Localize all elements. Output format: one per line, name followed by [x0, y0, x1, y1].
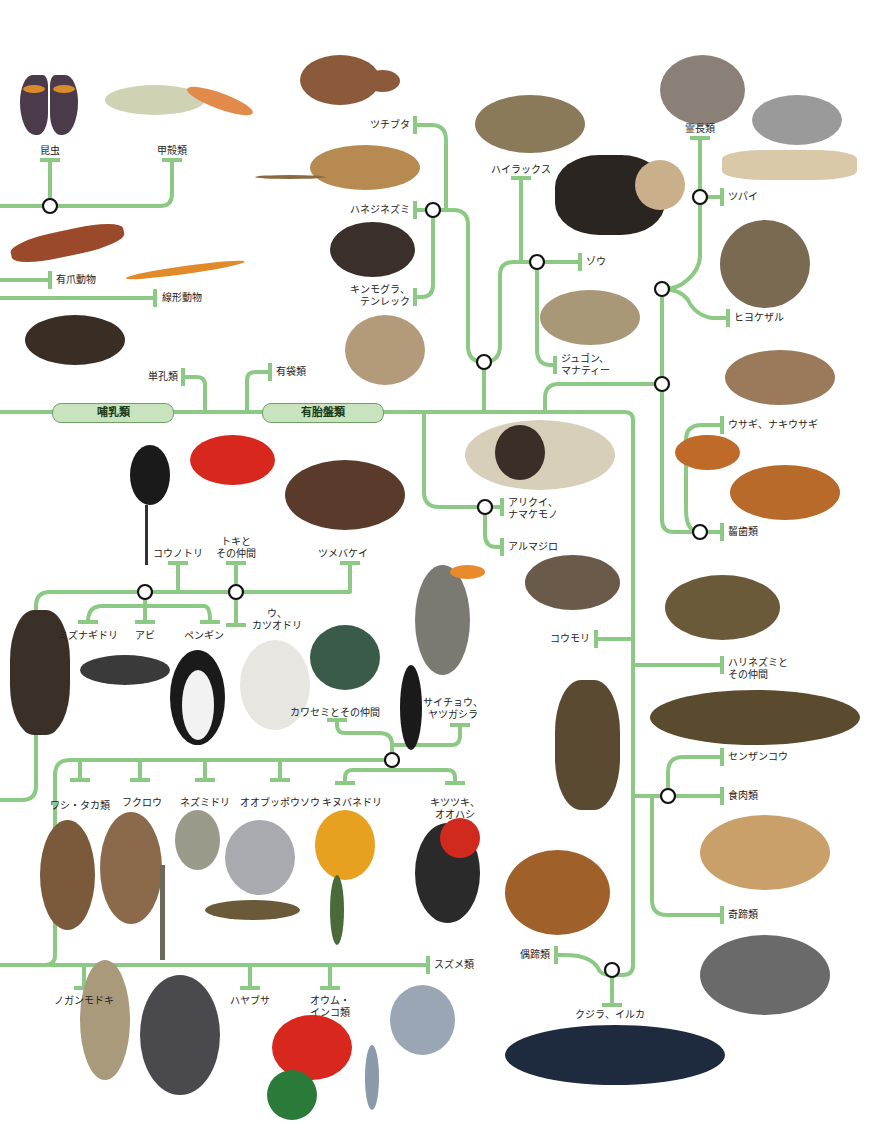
label-passerines: スズメ類: [434, 959, 474, 971]
label-insects: 昆虫: [40, 145, 60, 157]
hawk-image: [40, 820, 100, 935]
squirrel-image: [675, 435, 845, 525]
label-pangolins: センザンコウ: [728, 751, 788, 763]
label-woodpeckers: キツツキ、 オオハシ: [430, 797, 480, 821]
label-hedgehogs: ハリネズミと その仲間: [728, 657, 788, 681]
bat-image: [550, 660, 625, 815]
pig-image: [505, 850, 615, 945]
label-perissodactyls: 奇蹄類: [728, 909, 758, 921]
shearwater-image: [0, 600, 80, 740]
golden-mole-image: [330, 222, 415, 280]
label-crustaceans: 甲殻類: [157, 145, 187, 157]
trogon-image: [310, 810, 385, 945]
label-armadillos: アルマジロ: [508, 541, 558, 553]
kingfisher-image: [300, 620, 405, 695]
falcon-image: [135, 975, 225, 1100]
label-storks: コウノトリ: [153, 548, 203, 560]
armadillo-image: [465, 555, 625, 615]
elephant-image: [555, 155, 690, 250]
hoatzin-image: [275, 440, 415, 540]
jackal-image: [690, 810, 840, 895]
label-whales: クジラ、イルカ: [575, 1009, 645, 1021]
label-loons: アビ: [135, 630, 155, 642]
label-hoatzin: ツメバケイ: [318, 548, 368, 560]
label-hornbills: サイチョウ、 ヤツガシラ: [423, 697, 483, 721]
label-rabbits: ウサギ、ナキウサギ: [728, 419, 818, 431]
kangaroo-image: [335, 315, 450, 395]
anteater-image: [435, 420, 620, 495]
hyrax-image: [475, 95, 590, 155]
label-colugos: ヒヨケザル: [734, 312, 784, 324]
rhino-image: [700, 935, 835, 1020]
label-eagles-hawks: ワシ・タカ類: [50, 800, 110, 812]
label-marsupials: 有袋類: [276, 366, 306, 378]
label-elephants: ゾウ: [586, 256, 606, 268]
label-rodents: 齧歯類: [728, 526, 758, 538]
treeshrew-image: [722, 95, 857, 185]
label-seriemas: ノガンモドキ: [54, 995, 114, 1007]
label-trogons: キヌバネドリ: [322, 797, 382, 809]
cuckoo-roller-image: [205, 820, 300, 930]
label-ibises: トキと その仲間: [216, 536, 256, 560]
label-dugongs: ジュゴン、 マナティー: [561, 353, 610, 377]
hedgehog-image: [665, 575, 785, 645]
label-owls: フクロウ: [122, 797, 162, 809]
label-carnivores: 食肉類: [728, 790, 758, 802]
echidna-image: [25, 310, 135, 370]
label-anteaters: アリクイ、 ナマケモノ: [508, 497, 558, 521]
label-artiodactyls: 偶蹄類: [500, 949, 550, 961]
label-shearwaters: ミズナギドリ: [58, 630, 118, 642]
nematode-image: [125, 262, 245, 282]
magpie-image: [360, 985, 460, 1115]
hornbill-image: [395, 565, 485, 755]
colugo-image: [720, 220, 815, 310]
aardvark-image: [290, 45, 405, 115]
hare-image: [725, 330, 845, 415]
elephant-shrew-image: [255, 145, 425, 195]
butterfly-image: [20, 75, 80, 140]
label-cormorants: ウ、 カツオドリ: [252, 608, 302, 632]
label-velvet-worms: 有爪動物: [56, 274, 96, 286]
label-primates: 霊長類: [685, 123, 715, 135]
dugong-image: [520, 285, 645, 355]
label-bats: コウモリ: [530, 633, 590, 645]
seriema-image: [65, 960, 140, 1100]
label-penguins: ペンギン: [184, 630, 224, 642]
label-hyraxes: ハイラックス: [491, 164, 551, 176]
label-monotremes: 単孔類: [138, 371, 178, 383]
penguin-image: [160, 645, 235, 750]
label-elephant-shrews: ハネジネズミ: [320, 204, 410, 216]
shrimp-image: [105, 75, 255, 135]
velvet-worm-image: [10, 220, 125, 265]
clade-placentals-label: 有胎盤類: [262, 403, 384, 423]
pangolin-image: [650, 680, 860, 750]
label-treeshrews: ツパイ: [728, 191, 758, 203]
label-parrots: オウム・ インコ類: [310, 995, 350, 1019]
label-nematodes: 線形動物: [162, 292, 202, 304]
label-aardvark: ツチブタ: [340, 119, 410, 131]
whale-image: [505, 1015, 730, 1100]
label-cuckoo-rollers: オオブッポウソウ: [240, 797, 320, 809]
label-kingfishers: カワセミとその仲間: [290, 707, 380, 719]
label-mousebirds: ネズミドリ: [180, 797, 230, 809]
label-golden-moles: キンモグラ、 テンレック: [330, 284, 410, 308]
woodpecker-image: [410, 818, 490, 928]
parrot-image: [262, 1015, 357, 1125]
clade-mammals-label: 哺乳類: [52, 403, 174, 423]
label-falcons: ハヤブサ: [230, 995, 270, 1007]
